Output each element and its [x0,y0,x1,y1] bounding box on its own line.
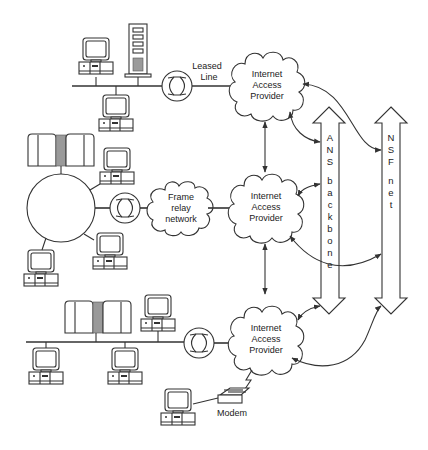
top-lan [72,24,168,131]
leased-line-label: Leased [192,61,222,71]
line-interface-icon [184,328,214,358]
bottom-lan [26,295,184,384]
svg-text:b: b [327,223,332,234]
link-arrow [298,184,320,196]
workstation-icon [93,233,127,269]
frame-relay-label: network [165,214,197,224]
svg-text:S: S [327,156,333,167]
modem-icon [218,388,249,403]
workstation-icon [100,148,134,184]
link-arrow [292,306,381,366]
svg-text:t: t [390,199,393,210]
svg-text:c: c [328,199,333,210]
svg-text:S: S [388,144,394,155]
line-interface-icon [110,193,140,223]
workstation-icon [24,250,58,286]
token-ring [27,174,95,242]
workstation-icon [29,348,63,384]
provider-label: Internet [252,69,283,79]
provider-label: Provider [249,345,283,355]
provider-label: Internet [251,323,282,333]
modem-label: Modem [217,408,247,418]
workstation-icon [108,348,142,384]
svg-text:A: A [327,132,334,143]
svg-text:e: e [388,187,393,198]
mainframe-icon [65,301,131,333]
line-interface-icon [162,71,192,101]
svg-text:o: o [327,235,332,246]
provider-label: Access [251,334,281,344]
svg-text:N: N [327,144,334,155]
mainframe-icon [28,134,94,166]
provider-label: Access [252,80,282,90]
svg-text:a: a [327,187,333,198]
svg-text:n: n [388,175,393,186]
link-arrow [290,112,320,142]
network-diagram: Leased Line Internet Access Provider Fra… [0,0,428,450]
workstation-icon [79,38,113,74]
svg-text:k: k [328,211,333,222]
frame-relay-label: Frame [168,192,194,202]
server-tower-icon [125,24,151,77]
link-arrow [303,84,381,150]
workstation-icon [161,389,195,425]
provider-label: Provider [250,91,284,101]
workstation-icon [141,295,175,331]
provider-label: Internet [251,191,282,201]
provider-label: Access [251,202,281,212]
link-arrow [298,306,320,320]
svg-text:b: b [327,175,332,186]
frame-relay-label: relay [171,203,191,213]
dialup: Modem [161,370,252,425]
svg-text:F: F [388,156,394,167]
workstation-icon [99,95,133,131]
leased-line-label: Line [200,72,217,82]
provider-label: Provider [249,213,283,223]
svg-text:N: N [388,132,395,143]
svg-text:n: n [327,247,332,258]
